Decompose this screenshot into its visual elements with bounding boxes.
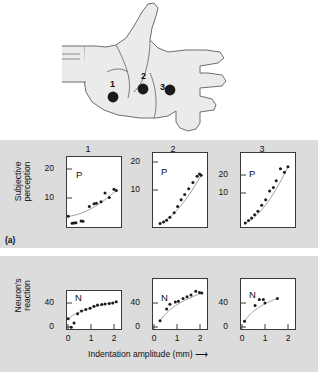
xtick-n1-1: 1	[85, 334, 97, 343]
xtick-n3-0: 0	[236, 334, 248, 343]
x-axis-title: Indentation amplitude (mm) ⟶	[88, 349, 207, 359]
perception-site-1-point-5	[81, 220, 84, 223]
neuron-site-3-point-2	[258, 298, 261, 301]
neuron-site-1-point-2	[73, 322, 76, 325]
perception-site-1-point-6	[88, 205, 91, 208]
perception-site-3-point-12	[286, 165, 289, 168]
neuron-site-2-canvas	[153, 279, 207, 329]
ytick-p3-20: 20	[212, 170, 228, 179]
neuron-site-2-point-7	[190, 293, 193, 296]
neuron-site-2-point-5	[182, 297, 185, 300]
xtick-n1-2: 2	[108, 334, 120, 343]
perception-site-1-point-9	[100, 200, 103, 203]
perception-site-3-point-8	[272, 186, 275, 189]
y-axis-label-b-line2: reaction	[23, 260, 32, 330]
y-axis-label-subjective-perception: Subjective perception	[14, 146, 33, 216]
perception-site-3-point-6	[264, 198, 267, 201]
column-number-1: 1	[78, 144, 98, 154]
neuron-site-1-point-11	[108, 302, 111, 305]
neuron-site-1-point-1	[70, 326, 73, 329]
series-letter-p3: P	[249, 169, 255, 179]
perception-site-2-point-10	[196, 175, 199, 178]
ytick-n2-0: 0	[122, 322, 140, 331]
perception-site-2-point-6	[180, 198, 183, 201]
perception-site-1-point-3	[74, 221, 77, 224]
ytick-p1-20: 20	[38, 164, 54, 173]
neuron-site-1-point-10	[104, 303, 107, 306]
site-label-3: 3	[160, 83, 165, 92]
chart-neuron-site-3	[240, 278, 296, 330]
panel-b-neuron-reaction: Neuron's reaction 40 0 N 0 1 2 40 0 N 0 …	[0, 256, 318, 372]
perception-site-1-point-13	[115, 189, 118, 192]
perception-site-2-point-5	[176, 205, 179, 208]
neuron-site-1-point-12	[111, 301, 114, 304]
perception-site-2-point-1	[162, 220, 165, 223]
neuron-site-2-point-1	[165, 308, 168, 311]
neuron-site-2-point-6	[186, 295, 189, 298]
ytick-n3-0: 0	[210, 322, 228, 331]
x-axis-arrow-icon: ⟶	[195, 349, 207, 359]
xtick-n3-1: 1	[259, 334, 271, 343]
ytick-n1-0: 0	[36, 322, 54, 331]
perception-site-2-point-9	[191, 181, 194, 184]
hand-shape	[62, 3, 226, 131]
chart-neuron-site-2	[152, 278, 208, 330]
perception-site-3-canvas	[241, 153, 295, 227]
xtick-n2-1: 1	[171, 334, 183, 343]
ytick-n3-40: 40	[210, 298, 228, 307]
hand-outline-svg	[0, 0, 318, 138]
neuron-site-2-point-10	[200, 292, 203, 295]
neuron-site-2-point-0	[159, 319, 162, 322]
ytick-p2-10: 10	[124, 185, 140, 194]
series-letter-p1: P	[76, 170, 82, 180]
perception-site-3-point-9	[275, 179, 278, 182]
ytick-p3-10: 10	[212, 188, 228, 197]
site-dot-1	[108, 92, 119, 103]
perception-site-3-point-4	[256, 210, 259, 213]
site-dot-2	[138, 84, 149, 95]
neuron-site-3-canvas	[241, 279, 295, 329]
panel-label-a: (a)	[5, 235, 15, 245]
neuron-site-2-point-2	[168, 303, 171, 306]
series-letter-n2: N	[161, 293, 168, 303]
y-axis-label-line2: perception	[23, 146, 32, 216]
figure-root: 1 2 3 1 2 3 Subjective perception 20 10 …	[0, 0, 318, 372]
perception-site-2-point-7	[183, 193, 186, 196]
perception-site-1-fit-curve	[68, 190, 116, 216]
site-label-1: 1	[110, 80, 115, 89]
neuron-site-1-point-9	[100, 303, 103, 306]
neuron-site-1-point-3	[76, 312, 79, 315]
series-letter-p2: P	[161, 167, 167, 177]
perception-site-2-point-3	[168, 216, 171, 219]
chart-perception-site-1	[66, 156, 122, 228]
perception-site-3-point-7	[268, 189, 271, 192]
y-axis-label-neuron-reaction: Neuron's reaction	[14, 260, 33, 330]
perception-site-3-point-5	[260, 204, 263, 207]
hand-diagram: 1 2 3	[0, 0, 318, 138]
chart-perception-site-3	[240, 152, 296, 228]
neuron-site-1-point-13	[115, 300, 118, 303]
perception-site-2-point-12	[200, 174, 203, 177]
perception-site-2-point-8	[187, 187, 190, 190]
perception-site-3-point-10	[279, 167, 282, 170]
xtick-n1-0: 0	[62, 334, 74, 343]
neuron-site-2-point-3	[174, 300, 177, 303]
perception-site-1-point-8	[95, 202, 98, 205]
perception-site-2-point-0	[159, 222, 162, 225]
panel-a-subjective-perception: 1 2 3 Subjective perception 20 10 P 20 1…	[0, 140, 318, 248]
neuron-site-3-point-4	[263, 302, 266, 305]
chart-perception-site-2	[152, 152, 208, 228]
neuron-site-3-point-0	[243, 320, 246, 323]
neuron-site-3-fit-curve	[245, 298, 278, 321]
perception-site-3-point-1	[247, 219, 250, 222]
perception-site-2-point-2	[165, 219, 168, 222]
neuron-site-3-point-3	[262, 298, 265, 301]
perception-site-3-point-11	[283, 171, 286, 174]
neuron-site-2-point-8	[194, 290, 197, 293]
xtick-n2-2: 2	[194, 334, 206, 343]
xtick-n3-2: 2	[282, 334, 294, 343]
perception-site-1-point-11	[108, 196, 111, 199]
neuron-site-1-point-5	[84, 308, 87, 311]
series-letter-n1: N	[75, 293, 82, 303]
series-letter-n3: N	[249, 290, 256, 300]
